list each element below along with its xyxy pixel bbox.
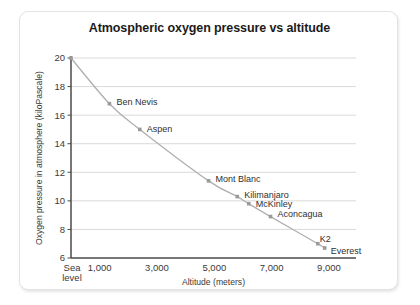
- data-point-label: Everest: [331, 246, 362, 256]
- y-tick-label: 16: [54, 110, 65, 121]
- screenshot-stage: Atmospheric oxygen pressure vs altitude …: [0, 0, 420, 305]
- x-tick-label: 1,000: [88, 262, 112, 273]
- y-tick-label: 10: [54, 195, 65, 206]
- data-point-marker[interactable]: [247, 202, 251, 206]
- x-axis-title: Altitude (meters): [182, 277, 245, 287]
- data-point-marker[interactable]: [207, 179, 211, 183]
- x-tick-label: 7,000: [260, 262, 284, 273]
- x-tick-label: 9,000: [317, 262, 341, 273]
- data-point-label: Ben Nevis: [116, 97, 158, 107]
- plot-area: 68101214161820Sealevel1,0003,0005,0007,0…: [20, 12, 399, 291]
- y-axis-title: Oxygen pressure in atmosphere (kiloPasca…: [34, 71, 44, 245]
- x-tick-label-level: level: [62, 272, 82, 283]
- data-point-label: Mont Blanc: [216, 174, 262, 184]
- data-point-marker[interactable]: [108, 102, 112, 106]
- y-tick-label: 20: [54, 52, 65, 63]
- y-tick-label: 8: [60, 224, 65, 235]
- line-chart: 68101214161820Sealevel1,0003,0005,0007,0…: [20, 12, 399, 291]
- x-tick-label: 3,000: [145, 262, 169, 273]
- data-point-marker[interactable]: [69, 56, 73, 60]
- chart-card: Atmospheric oxygen pressure vs altitude …: [19, 11, 398, 290]
- y-tick-label: 14: [54, 138, 65, 149]
- y-tick-label: 18: [54, 81, 65, 92]
- data-point-marker[interactable]: [138, 128, 142, 132]
- data-point-marker[interactable]: [235, 195, 239, 199]
- data-point-label: K2: [320, 234, 331, 244]
- data-point-label: Aspen: [147, 124, 173, 134]
- x-tick-label: 5,000: [202, 262, 226, 273]
- data-point-marker[interactable]: [269, 215, 273, 219]
- y-tick-label: 12: [54, 167, 65, 178]
- data-point-label: Aconcagua: [278, 209, 323, 219]
- data-point-marker[interactable]: [323, 246, 327, 250]
- data-point-label: McKinley: [256, 199, 293, 209]
